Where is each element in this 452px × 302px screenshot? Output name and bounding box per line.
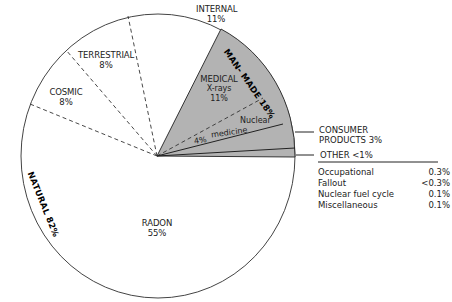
other-row-label: Nuclear fuel cycle — [318, 189, 394, 200]
label-consumer: CONSUMER PRODUCTS 3% — [319, 125, 382, 145]
other-row: Fallout <0.3% — [318, 178, 450, 189]
other-row-value: <0.3% — [421, 178, 450, 189]
other-row-value: 0.3% — [428, 167, 450, 178]
label-cosmic-name: COSMIC — [46, 87, 86, 97]
label-consumer-line1: CONSUMER — [319, 125, 382, 135]
label-terrestrial-name: TERRESTRIAL — [78, 50, 134, 60]
label-medical-name: MEDICAL — [199, 74, 239, 84]
label-internal-name: INTERNAL — [196, 4, 236, 14]
other-row-label: Occupational — [318, 167, 374, 178]
other-row: Miscellaneous 0.1% — [318, 200, 450, 211]
other-row-value: 0.1% — [428, 200, 450, 211]
label-internal: INTERNAL 11% — [196, 4, 236, 24]
other-row: Nuclear fuel cycle 0.1% — [318, 189, 450, 200]
label-other: OTHER <1% — [320, 150, 373, 160]
label-consumer-line2: PRODUCTS 3% — [319, 135, 382, 145]
label-radon-name: RADON — [137, 218, 177, 228]
other-row: Occupational 0.3% — [318, 167, 450, 178]
label-radon-pct: 55% — [137, 228, 177, 238]
label-cosmic: COSMIC 8% — [46, 87, 86, 107]
other-row-label: Fallout — [318, 178, 346, 189]
label-cosmic-pct: 8% — [46, 97, 86, 107]
label-terrestrial-pct: 8% — [78, 60, 134, 70]
label-terrestrial: TERRESTRIAL 8% — [78, 50, 134, 70]
label-medical: MEDICAL X-rays 11% — [199, 74, 239, 104]
label-internal-pct: 11% — [196, 14, 236, 24]
pie-chart — [0, 0, 452, 302]
other-row-label: Miscellaneous — [318, 200, 378, 211]
label-radon: RADON 55% — [137, 218, 177, 238]
label-xrays-pct: 11% — [199, 94, 239, 104]
other-row-value: 0.1% — [428, 189, 450, 200]
other-breakdown-table: Occupational 0.3% Fallout <0.3% Nuclear … — [318, 167, 450, 211]
label-xrays-name: X-rays — [199, 84, 239, 94]
